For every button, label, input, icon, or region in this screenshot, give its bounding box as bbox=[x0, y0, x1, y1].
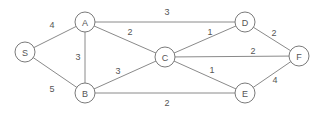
edge-weight-a-b: 3 bbox=[75, 52, 80, 62]
node-label: S bbox=[22, 48, 28, 58]
node-e: E bbox=[235, 83, 255, 103]
node-f: F bbox=[289, 46, 309, 66]
edge-weight-c-e: 1 bbox=[209, 65, 214, 75]
node-b: B bbox=[75, 83, 95, 103]
node-c: C bbox=[155, 47, 175, 67]
node-label: B bbox=[82, 89, 88, 99]
edge-b-c bbox=[85, 57, 165, 93]
edge-weight-b-e: 2 bbox=[164, 98, 169, 108]
edge-weight-c-f: 2 bbox=[250, 46, 255, 56]
node-label: F bbox=[296, 52, 302, 62]
edge-weight-a-d: 3 bbox=[164, 7, 169, 17]
node-s: S bbox=[15, 42, 35, 62]
node-a: A bbox=[75, 12, 95, 32]
edge-weight-s-a: 4 bbox=[49, 20, 54, 30]
nodes-layer: SABCDEF bbox=[15, 12, 309, 103]
edge-weight-b-c: 3 bbox=[115, 66, 120, 76]
edge-weight-d-f: 2 bbox=[271, 28, 276, 38]
node-d: D bbox=[235, 12, 255, 32]
edge-weight-s-b: 5 bbox=[49, 84, 54, 94]
edge-weight-a-c: 2 bbox=[127, 27, 132, 37]
weighted-graph: 453233212124 SABCDEF bbox=[0, 0, 321, 117]
node-label: D bbox=[242, 18, 249, 28]
node-label: A bbox=[82, 18, 88, 28]
edge-c-d bbox=[165, 22, 245, 57]
edge-c-e bbox=[165, 57, 245, 93]
edge-a-c bbox=[85, 22, 165, 57]
edge-weight-c-d: 1 bbox=[207, 27, 212, 37]
node-label: E bbox=[242, 89, 248, 99]
node-label: C bbox=[162, 53, 169, 63]
edge-c-f bbox=[165, 56, 299, 57]
edge-weight-e-f: 4 bbox=[272, 75, 277, 85]
